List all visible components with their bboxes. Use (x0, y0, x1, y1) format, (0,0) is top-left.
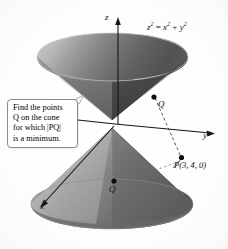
y-axis-label: y (203, 131, 207, 140)
point-label-Q-lower: Q (109, 185, 116, 194)
callout-line-4: is a minimum. (13, 134, 73, 144)
eq-equals: = (154, 22, 164, 32)
point-Q-upper (151, 94, 156, 99)
figure-container: Figure 5 A typical example (0, 0, 228, 249)
z-axis-label: z (105, 13, 109, 22)
eq-exp-y: 2 (184, 21, 187, 27)
x-axis-label: x (40, 202, 44, 211)
callout-line-1: Find the points (13, 103, 73, 113)
callout-box: Find the points Q on the cone for which … (7, 99, 78, 148)
cone-equation-label: z2 = x2 + y2 (147, 23, 187, 32)
eq-plus: + (170, 22, 180, 32)
point-label-Q-upper: Q (158, 100, 165, 109)
point-label-P: P(3, 4, 0) (174, 161, 206, 170)
callout-line-3: for which |PQ| (13, 123, 73, 133)
callout-line-2: Q on the cone (13, 113, 73, 123)
point-Q-lower (111, 178, 116, 183)
